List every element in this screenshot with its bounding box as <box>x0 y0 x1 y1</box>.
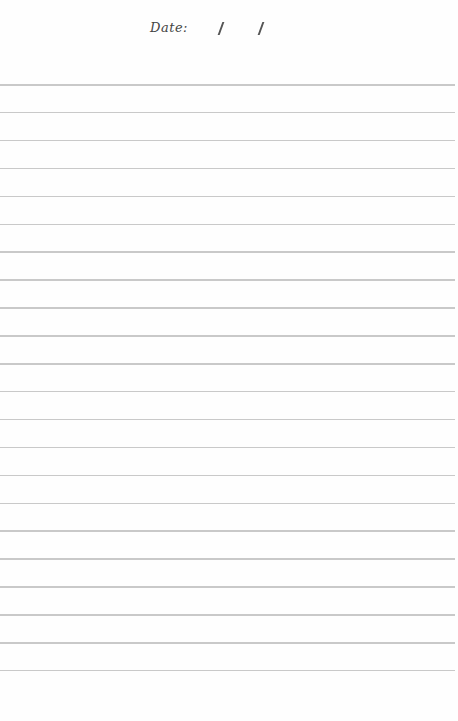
ruled-line <box>0 614 455 616</box>
ruled-line <box>0 168 455 170</box>
date-field: Date: <box>150 14 290 44</box>
ruled-line <box>0 196 455 198</box>
ruled-line <box>0 279 455 281</box>
date-separator <box>218 22 224 35</box>
ruled-line <box>0 586 455 588</box>
ruled-line <box>0 112 455 114</box>
ruled-line <box>0 419 455 421</box>
ruled-line <box>0 642 455 644</box>
ruled-line <box>0 363 455 365</box>
date-separator <box>258 22 264 35</box>
ruled-line <box>0 503 455 505</box>
ruled-line <box>0 335 455 337</box>
ruled-line <box>0 84 455 86</box>
ruled-line <box>0 307 455 309</box>
ruled-line <box>0 475 455 477</box>
ruled-line <box>0 391 455 393</box>
ruled-line <box>0 140 455 142</box>
ruled-line <box>0 670 455 672</box>
ruled-line <box>0 251 455 253</box>
ruled-line <box>0 530 455 532</box>
lined-paper-page: Date: <box>0 0 458 721</box>
ruled-line <box>0 558 455 560</box>
ruled-line <box>0 224 455 226</box>
ruled-line <box>0 447 455 449</box>
date-label: Date: <box>150 20 188 35</box>
